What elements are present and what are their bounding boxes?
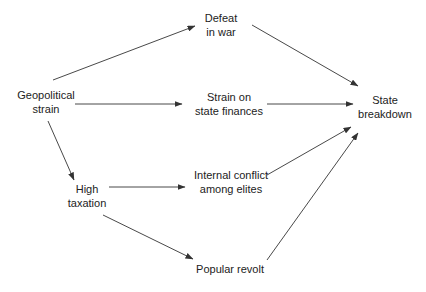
node-geopolitical: Geopoliticalstrain (17, 89, 74, 116)
node-label-line: Defeat (205, 12, 237, 26)
node-label-line: taxation (68, 197, 107, 211)
arrow-elites-to-breakdown (267, 127, 351, 175)
node-label-line: State (358, 94, 412, 108)
node-taxation: Hightaxation (68, 183, 107, 210)
node-label-line: Strain on (195, 91, 263, 105)
arrow-defeat-to-breakdown (252, 25, 358, 86)
arrow-revolt-to-breakdown (267, 133, 358, 260)
node-label-line: High (68, 183, 107, 197)
diagram-edges (0, 0, 426, 292)
node-breakdown: Statebreakdown (358, 94, 412, 121)
arrow-taxation-to-revolt (103, 215, 193, 259)
arrow-geopolitical-to-defeat (53, 26, 195, 80)
node-finances: Strain onstate finances (195, 91, 263, 118)
node-label-line: Popular revolt (196, 263, 264, 277)
node-label-line: Geopolitical (17, 89, 74, 103)
node-label-line: state finances (195, 105, 263, 119)
node-elites: Internal conflictamong elites (194, 169, 268, 196)
node-revolt: Popular revolt (196, 263, 264, 277)
arrow-geopolitical-to-taxation (48, 121, 74, 180)
node-label-line: among elites (194, 183, 268, 197)
node-label-line: breakdown (358, 108, 412, 122)
node-defeat: Defeatin war (205, 12, 237, 39)
node-label-line: strain (17, 103, 74, 117)
node-label-line: in war (205, 26, 237, 40)
causal-diagram: GeopoliticalstrainDefeatin warStrain ons… (0, 0, 426, 292)
node-label-line: Internal conflict (194, 169, 268, 183)
